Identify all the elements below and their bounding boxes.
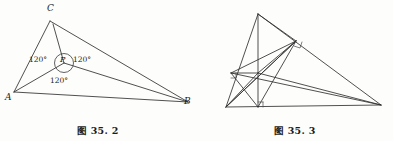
figure-35-2: C A B P 120° 120° 120° 图35. 2 (0, 0, 196, 141)
figure-35-3-caption: 图35. 3 (197, 123, 393, 137)
angle-label-apb: 120° (29, 55, 47, 64)
segment-cb (50, 21, 188, 102)
vertex-label-c: C (47, 3, 54, 13)
segment-center-right (258, 73, 381, 105)
segment-foot-upperright (258, 41, 296, 107)
segment-apex-left (226, 14, 258, 107)
figure-35-2-caption: 图35. 2 (0, 123, 196, 137)
caption-number-right: 35. 3 (288, 125, 316, 136)
vertex-label-b: B (184, 96, 191, 106)
angle-label-apc: 120° (50, 76, 68, 85)
vertex-label-a: A (5, 92, 12, 102)
caption-prefix-left: 图 (77, 125, 87, 136)
caption-number-left: 35. 2 (91, 125, 119, 136)
vertex-label-p: P (60, 55, 65, 64)
figure-35-3: 图35. 3 (197, 0, 393, 141)
figure-35-3-drawing (197, 0, 393, 120)
caption-prefix-right: 图 (274, 125, 284, 136)
figure-page: C A B P 120° 120° 120° 图35. 2 (0, 0, 393, 141)
segment-apex-upperright (258, 14, 296, 41)
segment-base (226, 105, 381, 107)
angle-label-bpc: 120° (73, 55, 91, 64)
